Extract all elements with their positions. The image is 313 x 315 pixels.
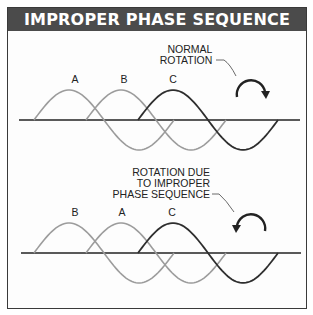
phase-label-2: B (120, 73, 127, 85)
phase-label-2: A (118, 206, 125, 218)
leader-line (216, 60, 236, 76)
normal-rotation-panel: A B C NORMAL ROTATION (19, 43, 300, 150)
phase-label-3: C (168, 206, 176, 218)
caption-line-3: PHASE SEQUENCE (113, 188, 210, 200)
clockwise-arrow-icon (237, 80, 270, 99)
phase-label-1: B (71, 206, 78, 218)
counterclockwise-arrow-icon (232, 214, 265, 233)
phase-label-1: A (71, 73, 78, 85)
leader-line (212, 194, 234, 212)
phase-label-3: C (169, 73, 177, 85)
caption-line-2: ROTATION (160, 54, 213, 66)
phase-sequence-diagram: A B C NORMAL ROTATION B A C ROTATION DUE… (0, 0, 313, 315)
improper-rotation-panel: B A C ROTATION DUE TO IMPROPER PHASE SEQ… (21, 166, 301, 283)
